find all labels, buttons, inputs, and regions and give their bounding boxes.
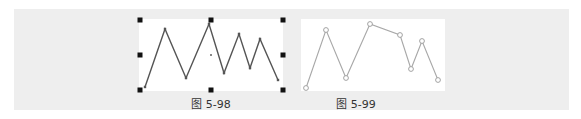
anchor-point-handle[interactable]	[324, 28, 329, 33]
anchor-point-handle[interactable]	[344, 76, 349, 81]
anchor-point-handle[interactable]	[368, 22, 373, 27]
anchor-point-handle[interactable]	[304, 86, 309, 91]
polyline[interactable]	[306, 24, 438, 88]
anchor-point-handle[interactable]	[436, 78, 441, 83]
anchor-point-handle[interactable]	[420, 39, 425, 44]
polyline-path-edit-points[interactable]	[0, 0, 581, 119]
anchor-point-handle[interactable]	[409, 67, 414, 72]
figure-5-99-caption: 图 5-99	[336, 95, 375, 111]
anchor-point-handle[interactable]	[398, 33, 403, 38]
